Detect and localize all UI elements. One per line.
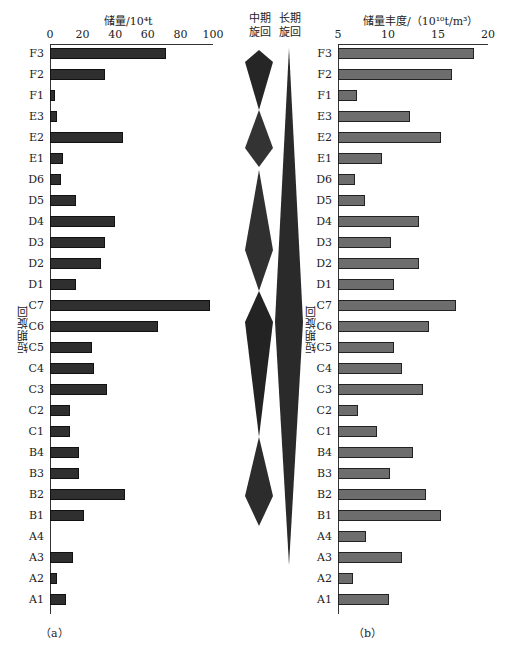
panel-b-category-label: B4 (302, 446, 332, 459)
panel-b-sub-label: （b） (353, 624, 382, 640)
panel-b-tick: 15 (431, 28, 445, 41)
panel-b-category-label: B3 (302, 467, 332, 480)
panel-b-category-label: D2 (302, 257, 332, 270)
panel-b-category-label: E2 (302, 131, 332, 144)
panel-b-category-label: A4 (302, 530, 332, 543)
panel-b-bar (338, 510, 441, 521)
panel-b-category-label: B1 (302, 509, 332, 522)
panel-b-category-label: F1 (302, 89, 332, 102)
panel-b-category-label: C4 (302, 362, 332, 375)
panel-b-bar (338, 300, 456, 311)
panel-b-bar (338, 195, 365, 206)
panel-b-axis-title: 储量丰度/（10¹⁰t/m³） (363, 12, 479, 28)
panel-b-category-label: A1 (302, 593, 332, 606)
cycle-diagram (0, 0, 509, 648)
panel-b-bar (338, 174, 355, 185)
panel-b-category-label: C3 (302, 383, 332, 396)
panel-b-category-label: D1 (302, 278, 332, 291)
panel-b-bar (338, 216, 419, 227)
panel-b-category-label: E1 (302, 152, 332, 165)
panel-b-bar (338, 363, 402, 374)
panel-b-bar (338, 90, 357, 101)
panel-b-bar (338, 573, 353, 584)
panel-b-bar (338, 48, 474, 59)
panel-b-category-label: D4 (302, 215, 332, 228)
panel-b-bar (338, 447, 413, 458)
panel-b-tick: 20 (481, 28, 495, 41)
panel-b-category-label: D5 (302, 194, 332, 207)
panel-b-bar (338, 594, 389, 605)
panel-b-bar (338, 552, 402, 563)
panel-b-category-label: D6 (302, 173, 332, 186)
panel-b-bar (338, 468, 390, 479)
panel-b-tick: 5 (335, 28, 342, 41)
medium-cycle-diamond-3 (245, 170, 273, 291)
panel-b-category-label: B2 (302, 488, 332, 501)
panel-b-category-label: A3 (302, 551, 332, 564)
panel-b-bar (338, 342, 394, 353)
panel-b-bar (338, 132, 441, 143)
panel-b-bar (338, 531, 366, 542)
panel-b-bar (338, 321, 429, 332)
panel-b-y-label: 短期旋回 (304, 305, 320, 353)
panel-b-bar (338, 153, 382, 164)
panel-b-category-label: F3 (302, 47, 332, 60)
panel-b-category-label: F2 (302, 68, 332, 81)
panel-b-bar (338, 384, 423, 395)
panel-b-category-label: A2 (302, 572, 332, 585)
panel-b-bar (338, 69, 452, 80)
panel-b-bar (338, 489, 426, 500)
medium-cycle-diamond-4 (245, 291, 273, 437)
panel-b-tick: 10 (381, 28, 395, 41)
medium-cycle-diamond-1 (245, 50, 273, 110)
panel-b-bar (338, 405, 358, 416)
panel-b-bar (338, 258, 419, 269)
panel-b-category-label: C2 (302, 404, 332, 417)
panel-b-bar (338, 111, 410, 122)
panel-b-x-axis (338, 44, 488, 45)
panel-b-category-label: E3 (302, 110, 332, 123)
medium-cycle-diamond-2 (245, 110, 273, 167)
panel-b-bar (338, 279, 394, 290)
panel-b-category-label: D3 (302, 236, 332, 249)
panel-b-bar (338, 237, 391, 248)
long-cycle-shape (275, 48, 303, 565)
medium-cycle-diamond-5 (245, 437, 273, 526)
panel-b-bar (338, 426, 377, 437)
panel-b-category-label: C1 (302, 425, 332, 438)
